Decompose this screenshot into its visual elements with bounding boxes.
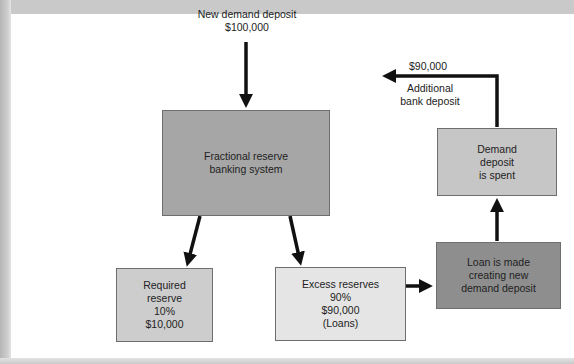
node-spent-text: Demand deposit is spent (477, 143, 517, 182)
feedback-description-label: Additional bank deposit (385, 82, 475, 108)
feedback-amount-label: $90,000 (398, 60, 458, 73)
node-system-text: Fractional reserve banking system (204, 150, 288, 176)
node-fractional-reserve-system: Fractional reserve banking system (162, 110, 330, 216)
arrow-system-to-excess (290, 216, 300, 261)
arrow-system-to-required (188, 216, 200, 262)
feedback-line1: Additional (385, 82, 475, 95)
node-required-reserve: Required reserve 10% $10,000 (116, 268, 213, 342)
feedback-line2: bank deposit (385, 95, 475, 108)
node-excess-text: Excess reserves 90% $90,000 (Loans) (302, 278, 379, 330)
source-deposit-label: New demand deposit $100,000 (186, 8, 308, 34)
source-line1: New demand deposit (186, 8, 308, 21)
node-excess-reserves: Excess reserves 90% $90,000 (Loans) (275, 267, 406, 341)
node-loan-text: Loan is made creating new demand deposit (461, 256, 536, 295)
node-required-text: Required reserve 10% $10,000 (143, 279, 186, 331)
source-amount: $100,000 (186, 21, 308, 34)
node-loan-made: Loan is made creating new demand deposit (436, 242, 561, 309)
node-demand-deposit-spent: Demand deposit is spent (437, 128, 557, 196)
